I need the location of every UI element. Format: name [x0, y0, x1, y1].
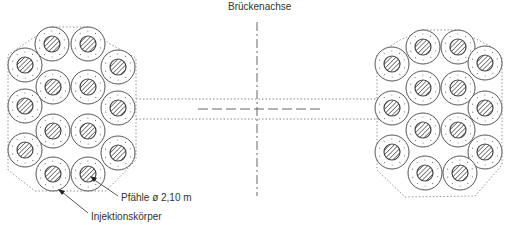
pile	[468, 46, 502, 80]
pile	[36, 114, 70, 148]
axis-title-label: Brückenachse	[228, 1, 291, 12]
pile-core-hatched	[45, 166, 61, 182]
pile-core-hatched	[417, 165, 433, 181]
pile	[8, 133, 42, 167]
pile-core-hatched	[17, 57, 33, 73]
pile-core-hatched	[415, 122, 431, 138]
pile	[443, 156, 477, 190]
pile-core-hatched	[80, 36, 96, 52]
pile	[406, 113, 440, 147]
pile-core-hatched	[110, 100, 126, 116]
pile-core-hatched	[384, 144, 400, 160]
pile	[101, 50, 135, 84]
grout-leader-line	[62, 192, 88, 213]
pile	[71, 114, 105, 148]
pile	[375, 91, 409, 125]
pile	[8, 48, 42, 82]
pile-core-hatched	[45, 79, 61, 95]
pile-core-hatched	[452, 165, 468, 181]
pile-core-hatched	[45, 123, 61, 139]
pile	[406, 30, 440, 64]
pile	[36, 157, 70, 191]
pile	[8, 89, 42, 123]
pile-core-hatched	[17, 98, 33, 114]
pile-core-hatched	[384, 56, 400, 72]
right-pile-group	[375, 30, 502, 197]
pile-core-hatched	[450, 122, 466, 138]
pile-core-hatched	[415, 39, 431, 55]
pile-core-hatched	[80, 123, 96, 139]
pile-core-hatched	[17, 142, 33, 158]
pile-core-hatched	[415, 80, 431, 96]
pile	[408, 156, 442, 190]
pile	[406, 71, 440, 105]
pile	[468, 91, 502, 125]
pile	[35, 27, 69, 61]
pile-core-hatched	[110, 145, 126, 161]
pile	[101, 91, 135, 125]
pile	[71, 70, 105, 104]
pile-core-hatched	[477, 55, 493, 71]
bridge-axis-lines	[136, 22, 379, 196]
left-pile-group	[8, 27, 136, 191]
pile-core-hatched	[477, 100, 493, 116]
pile-core-hatched	[477, 144, 493, 160]
pile	[36, 70, 70, 104]
pile	[375, 47, 409, 81]
pile-foundation-diagram	[0, 0, 515, 230]
grout-body-label: Injektionskörper	[91, 211, 162, 222]
pile	[71, 27, 105, 61]
pile	[375, 135, 409, 169]
pile-core-hatched	[80, 79, 96, 95]
piles-label: Pfähle ø 2,10 m	[121, 192, 192, 203]
pile-core-hatched	[450, 80, 466, 96]
pile-core-hatched	[110, 59, 126, 75]
pile	[71, 157, 105, 191]
pile-core-hatched	[384, 100, 400, 116]
pile-core-hatched	[450, 39, 466, 55]
pile	[101, 136, 135, 170]
pile	[441, 113, 475, 147]
pile-core-hatched	[44, 36, 60, 52]
